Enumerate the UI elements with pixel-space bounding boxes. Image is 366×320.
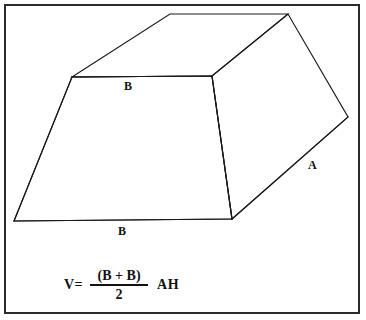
label-bottom-base-b: B — [118, 224, 126, 239]
volume-formula: V= (B + B) 2 AH — [64, 268, 179, 302]
formula-fraction: (B + B) 2 — [90, 268, 148, 302]
figure-root: B B A V= (B + B) 2 AH — [0, 0, 366, 320]
formula-denominator: 2 — [116, 286, 123, 302]
label-side-depth-a: A — [308, 158, 317, 173]
formula-numerator: (B + B) — [96, 268, 143, 284]
label-top-base-b: B — [124, 79, 132, 94]
formula-left-hand-side: V= — [64, 277, 83, 293]
formula-right-hand-side: AH — [157, 277, 179, 293]
front-face-fill — [14, 76, 232, 221]
